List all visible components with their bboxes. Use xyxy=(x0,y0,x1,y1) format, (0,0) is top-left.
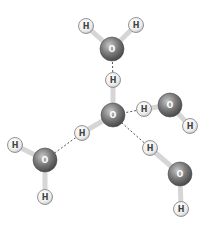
water-cluster-diagram: OHHOHHOHHOHHOHH xyxy=(0,0,206,231)
atom-label: O xyxy=(109,45,116,54)
hydrogen-atom: H xyxy=(129,18,144,33)
oxygen-atom: O xyxy=(100,37,124,61)
atom-label: O xyxy=(42,156,49,165)
hydrogen-atom: H xyxy=(174,202,189,217)
atom-label: H xyxy=(178,205,185,214)
hydrogen-atom: H xyxy=(38,190,53,205)
atom-label: H xyxy=(133,21,140,30)
hydrogen-bond-layer xyxy=(45,49,150,160)
atom-label: H xyxy=(12,141,19,150)
atom-layer: OHHOHHOHHOHHOHH xyxy=(8,18,198,217)
atom-label: H xyxy=(110,76,117,85)
oxygen-atom: O xyxy=(158,93,182,117)
atom-label: H xyxy=(187,122,194,131)
hydrogen-atom: H xyxy=(106,73,121,88)
atom-label: O xyxy=(110,111,117,120)
hydrogen-atom: H xyxy=(75,126,90,141)
oxygen-atom: O xyxy=(101,103,125,127)
atom-label: H xyxy=(147,144,154,153)
hydrogen-atom: H xyxy=(8,138,23,153)
hydrogen-atom: H xyxy=(79,19,94,34)
atom-label: H xyxy=(79,129,86,138)
hydrogen-atom: H xyxy=(183,119,198,134)
atom-label: O xyxy=(167,101,174,110)
atom-label: H xyxy=(141,105,148,114)
hydrogen-atom: H xyxy=(143,141,158,156)
oxygen-atom: O xyxy=(33,148,57,172)
atom-label: H xyxy=(83,22,90,31)
hydrogen-atom: H xyxy=(137,102,152,117)
atom-label: O xyxy=(177,170,184,179)
oxygen-atom: O xyxy=(168,162,192,186)
atom-label: H xyxy=(42,193,49,202)
